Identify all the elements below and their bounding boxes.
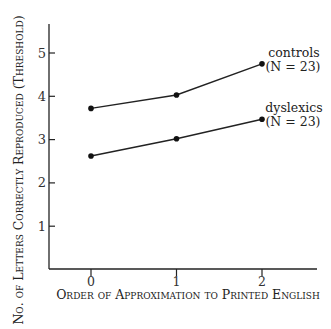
data-point: [174, 92, 180, 98]
y-tick-label: 4: [38, 89, 46, 104]
data-point: [259, 61, 265, 67]
data-series: controls(N = 23)dyslexics(N = 23): [88, 45, 322, 159]
data-point: [259, 116, 265, 122]
y-ticks: 12345: [38, 46, 55, 234]
y-axis-label: No. of Letters Correctly Reproduced (Thr…: [11, 15, 26, 324]
data-point: [174, 136, 180, 142]
y-tick-label: 5: [38, 46, 46, 61]
data-point: [88, 106, 94, 112]
series-n-label: (N = 23): [265, 59, 320, 74]
y-tick-label: 1: [38, 219, 46, 234]
y-tick-label: 2: [38, 175, 46, 190]
x-axis-label: Order of Approximation to Printed Englis…: [56, 287, 320, 302]
series-label: dyslexics: [265, 100, 322, 115]
x-ticks: 012: [87, 269, 266, 289]
y-tick-label: 3: [38, 132, 46, 147]
data-point: [88, 153, 94, 159]
series-line: [91, 64, 262, 109]
line-chart: 12345 012 controls(N = 23)dyslexics(N = …: [0, 0, 331, 329]
series-label: controls: [268, 45, 320, 60]
series-n-label: (N = 23): [265, 114, 320, 129]
series-dyslexics: dyslexics(N = 23): [88, 100, 322, 159]
